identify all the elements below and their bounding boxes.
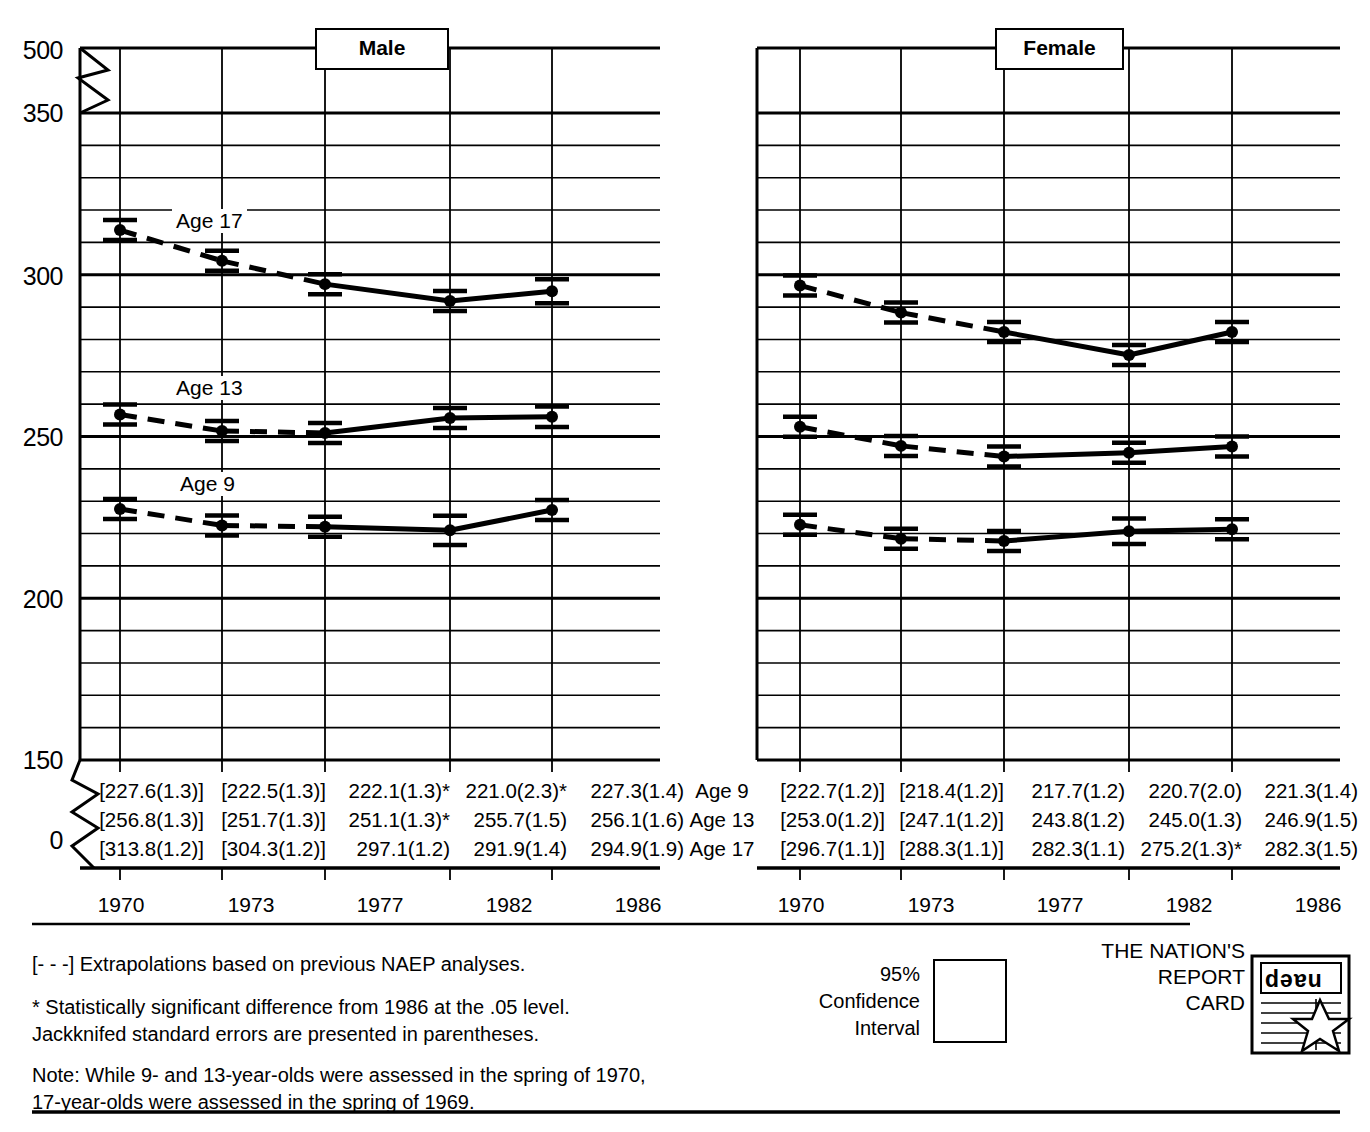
x-axis-tick-male-1970: 1970	[76, 893, 166, 917]
y-axis-tick-500: 500	[5, 36, 63, 65]
y-axis-tick-350: 350	[5, 99, 63, 128]
series-age-17	[103, 220, 569, 311]
table-male-age17-1970: [313.8(1.2)]	[84, 837, 204, 861]
series-segment	[325, 527, 450, 531]
data-point	[114, 224, 126, 236]
table-male-age9-1970: [227.6(1.3)]	[84, 779, 204, 803]
data-point	[1226, 523, 1238, 535]
x-axis-tick-male-1982: 1982	[464, 893, 554, 917]
data-point	[998, 451, 1010, 463]
data-point	[1123, 447, 1135, 459]
note-assessment-2: 17-year-olds were assessed in the spring…	[32, 1089, 474, 1116]
data-point	[319, 278, 331, 290]
panel-title-female: Female	[995, 28, 1124, 70]
series-label-male-age9: Age 9	[176, 472, 239, 496]
naep-trend-chart: Male Female 500 350 300 250 200 150 0 Ag…	[0, 0, 1370, 1132]
y-axis-tick-250: 250	[5, 423, 63, 452]
data-point	[444, 295, 456, 307]
note-assessment-1: Note: While 9- and 13-year-olds were ass…	[32, 1062, 646, 1089]
data-point	[216, 519, 228, 531]
note-significance-2: Jackknifed standard errors are presented…	[32, 1021, 539, 1048]
table-female-age13-1982: 245.0(1.3)	[1122, 808, 1242, 832]
table-male-age13-1970: [256.8(1.3)]	[84, 808, 204, 832]
table-male-age13-1986: 256.1(1.6)	[564, 808, 684, 832]
table-female-age13-1986: 246.9(1.5)	[1238, 808, 1358, 832]
table-female-age17-1973: [288.3(1.1)]	[884, 837, 1004, 861]
table-female-age13-1970: [253.0(1.2)]	[765, 808, 885, 832]
series-label-male-age13: Age 13	[172, 376, 247, 400]
series-segment	[901, 539, 1004, 541]
series-segment	[222, 525, 325, 526]
data-point	[895, 440, 907, 452]
brand-line-1: THE NATION'S	[1085, 938, 1245, 964]
table-female-age9-1970: [222.7(1.2)]	[765, 779, 885, 803]
data-point	[319, 427, 331, 439]
series-segment	[1129, 447, 1232, 453]
legend-ci-box	[933, 959, 1007, 1043]
series-segment	[1004, 332, 1129, 355]
data-point	[794, 519, 806, 531]
data-point	[546, 411, 558, 423]
brand-line-2: REPORT	[1085, 964, 1245, 990]
x-axis-tick-female-1982: 1982	[1144, 893, 1234, 917]
data-point	[1123, 349, 1135, 361]
axis-break-upper	[78, 48, 108, 113]
table-male-age13-1982: 255.7(1.5)	[447, 808, 567, 832]
data-point	[794, 421, 806, 433]
table-male-age17-1986: 294.9(1.9)	[564, 837, 684, 861]
data-point	[895, 533, 907, 545]
table-male-age13-1973: [251.7(1.3)]	[206, 808, 326, 832]
data-point	[216, 425, 228, 437]
table-female-age9-1982: 220.7(2.0)	[1122, 779, 1242, 803]
data-point	[114, 409, 126, 421]
y-axis-tick-0: 0	[5, 826, 63, 855]
row-label-age13: Age 13	[682, 808, 762, 832]
series-age-17	[783, 275, 1249, 365]
series-segment	[120, 230, 222, 261]
table-female-age9-1986: 221.3(1.4)	[1238, 779, 1358, 803]
y-axis-tick-200: 200	[5, 585, 63, 614]
x-axis-tick-male-1977: 1977	[335, 893, 425, 917]
table-female-age17-1970: [296.7(1.1)]	[765, 837, 885, 861]
naep-logo-wordmark: naep	[1264, 968, 1322, 995]
y-axis-tick-300: 300	[5, 262, 63, 291]
table-male-age9-1986: 227.3(1.4)	[564, 779, 684, 803]
data-point	[546, 285, 558, 297]
table-female-age9-1973: [218.4(1.2)]	[884, 779, 1004, 803]
series-segment	[450, 417, 552, 418]
table-male-age17-1982: 291.9(1.4)	[447, 837, 567, 861]
table-male-age9-1982: 221.0(2.3)*	[447, 779, 567, 803]
table-female-age9-1977: 217.7(1.2)	[1005, 779, 1125, 803]
series-age-13	[783, 417, 1249, 467]
series-segment	[800, 285, 901, 312]
note-significance-1: * Statistically significant difference f…	[32, 994, 570, 1021]
data-point	[998, 535, 1010, 547]
series-age-9	[103, 499, 569, 545]
data-point	[1123, 525, 1135, 537]
series-segment	[325, 284, 450, 301]
x-axis-tick-female-1977: 1977	[1015, 893, 1105, 917]
table-male-age17-1977: 297.1(1.2)	[330, 837, 450, 861]
panel-female	[757, 48, 1340, 880]
table-female-age17-1982: 275.2(1.3)*	[1122, 837, 1242, 861]
note-extrapolation: [- - -] Extrapolations based on previous…	[32, 951, 525, 978]
data-point	[1226, 326, 1238, 338]
data-point	[444, 524, 456, 536]
table-male-age13-1977: 251.1(1.3)*	[330, 808, 450, 832]
data-point	[216, 255, 228, 267]
table-male-age9-1977: 222.1(1.3)*	[330, 779, 450, 803]
row-label-age17: Age 17	[682, 837, 762, 861]
data-point	[444, 412, 456, 424]
data-point	[319, 521, 331, 533]
x-axis-tick-female-1986: 1986	[1273, 893, 1363, 917]
y-axis-tick-150: 150	[5, 746, 63, 775]
x-axis-tick-female-1973: 1973	[886, 893, 976, 917]
row-label-age9: Age 9	[682, 779, 762, 803]
series-segment	[222, 431, 325, 433]
x-axis-tick-male-1986: 1986	[593, 893, 683, 917]
x-axis-tick-female-1970: 1970	[756, 893, 846, 917]
data-point	[546, 504, 558, 516]
table-female-age17-1986: 282.3(1.5)	[1238, 837, 1358, 861]
table-female-age13-1977: 243.8(1.2)	[1005, 808, 1125, 832]
brand-line-3: CARD	[1085, 990, 1245, 1016]
